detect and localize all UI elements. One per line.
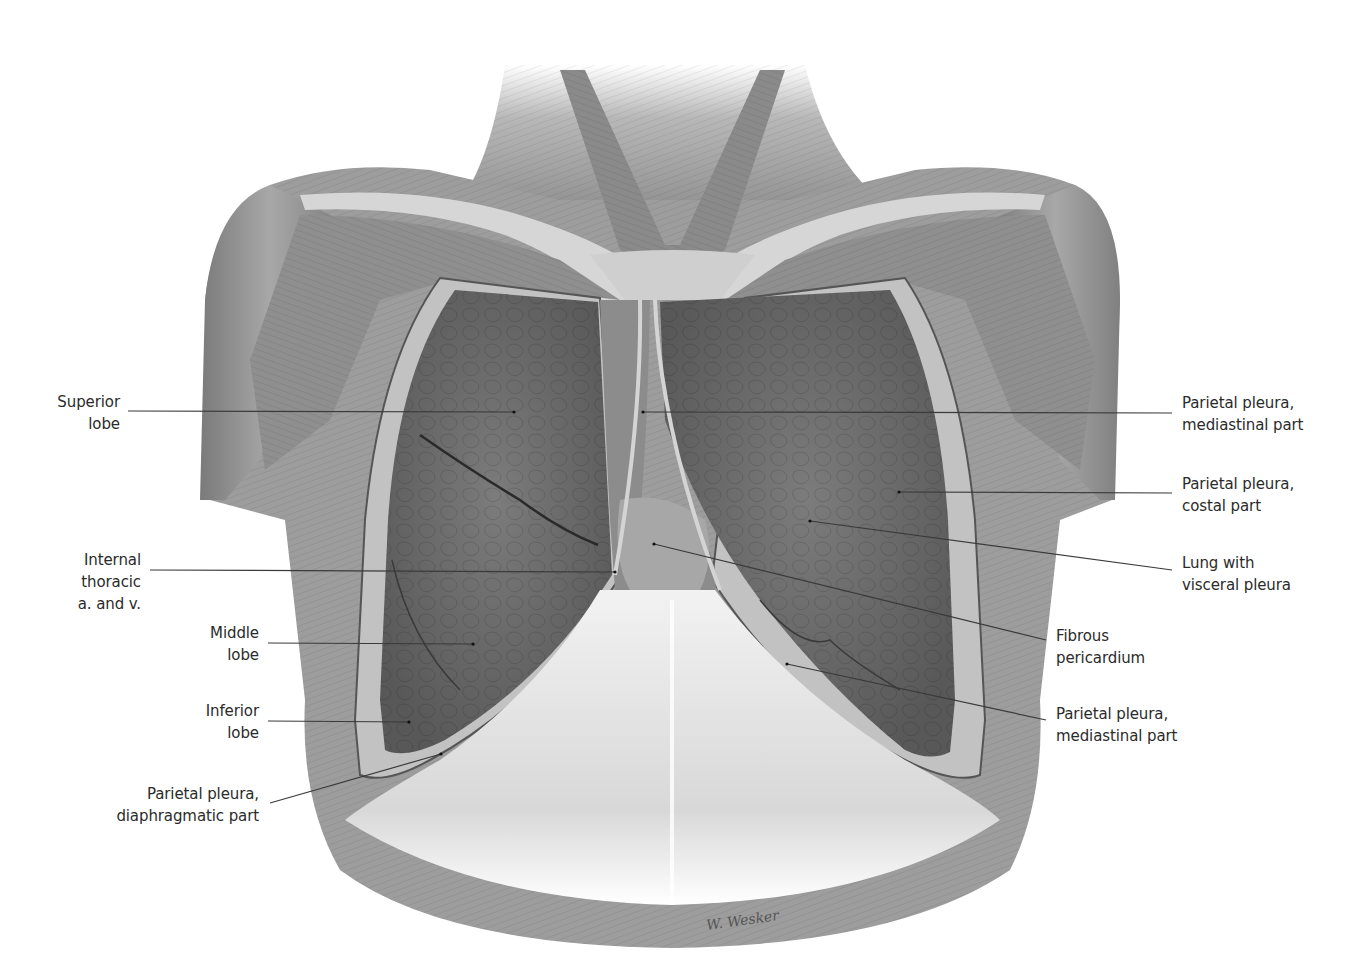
label-line: thoracic [78,571,141,593]
label-line: lobe [57,413,120,435]
label-line: mediastinal part [1182,414,1303,436]
leader-endpoint-parietal-pleura-mediastinal-upper [641,410,644,413]
label-line: mediastinal part [1056,725,1177,747]
leader-endpoint-middle-lobe [471,642,474,645]
label-line: Parietal pleura, [116,783,259,805]
label-inferior-lobe: Inferiorlobe [206,700,259,744]
label-line: Parietal pleura, [1182,392,1303,414]
leader-endpoint-parietal-pleura-mediastinal-lower [785,662,788,665]
label-parietal-pleura-costal: Parietal pleura,costal part [1182,473,1294,517]
label-line: Inferior [206,700,259,722]
label-line: Parietal pleura, [1056,703,1177,725]
label-line: a. and v. [78,593,141,615]
label-line: Fibrous [1056,625,1145,647]
label-line: costal part [1182,495,1294,517]
leader-endpoint-internal-thoracic [613,570,616,573]
label-line: Superior [57,391,120,413]
label-line: diaphragmatic part [116,805,259,827]
label-internal-thoracic: Internalthoracica. and v. [78,549,141,615]
label-line: lobe [210,644,259,666]
label-line: Middle [210,622,259,644]
label-lung-visceral-pleura: Lung withvisceral pleura [1182,552,1291,596]
label-superior-lobe: Superiorlobe [57,391,120,435]
leader-endpoint-fibrous-pericardium [652,542,655,545]
leader-endpoint-parietal-pleura-diaphragmatic [439,752,442,755]
label-parietal-pleura-mediastinal-lower: Parietal pleura,mediastinal part [1056,703,1177,747]
thorax-illustration [0,0,1345,979]
leader-endpoint-superior-lobe [512,410,515,413]
label-parietal-pleura-diaphragmatic: Parietal pleura,diaphragmatic part [116,783,259,827]
label-middle-lobe: Middlelobe [210,622,259,666]
label-line: Internal [78,549,141,571]
label-line: Parietal pleura, [1182,473,1294,495]
label-line: pericardium [1056,647,1145,669]
leader-endpoint-parietal-pleura-costal [897,490,900,493]
label-parietal-pleura-mediastinal-upper: Parietal pleura,mediastinal part [1182,392,1303,436]
leader-endpoint-inferior-lobe [407,720,410,723]
label-fibrous-pericardium: Fibrouspericardium [1056,625,1145,669]
leader-endpoint-lung-visceral-pleura [808,519,811,522]
label-line: visceral pleura [1182,574,1291,596]
label-line: Lung with [1182,552,1291,574]
label-line: lobe [206,722,259,744]
